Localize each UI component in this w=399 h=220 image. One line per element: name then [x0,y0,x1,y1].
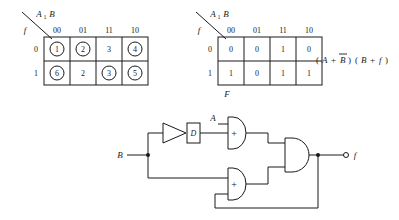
kmap-left-col-var-sub: 1 [44,14,47,20]
circuit-output-label-f: f [354,150,358,160]
circuit-input-label-b: B [117,150,123,160]
kmap-right-col-header-3: 10 [305,26,313,35]
equation-term-a: A [321,55,328,65]
kmap-right-caption: F [223,89,230,99]
kmap-right-cell-1-2: 1 [281,69,285,78]
kmap-right-cell-0-3: 0 [307,45,311,54]
figure-svg: A 1 B f 00 01 11 10 0 1 1 2 [0,0,399,220]
kmap-left-cell-0-2: 3 [107,45,111,54]
kmap-right-col-var-a: A [209,9,216,19]
kmap-right-cell-1-0: 1 [229,69,233,78]
kmap-right-col-header-0: 00 [227,26,235,35]
kmap-right-cell-0-1: 0 [255,45,259,54]
kmap-left-row-header-0: 0 [34,45,38,54]
figure-container: A 1 B f 00 01 11 10 0 1 1 2 [0,0,399,220]
kmap-left-col-var-a: A [35,9,42,19]
delay-element-label: D [190,129,197,138]
kmap-right-cell-0-2: 1 [281,45,285,54]
equation-close-paren-2: ) [385,55,388,65]
kmap-left-col-header-3: 10 [131,26,139,35]
kmap-right-row-header-0: 0 [208,45,212,54]
or-gate-lower-symbol: + [231,179,237,190]
kmap-left-cell-1-3: 5 [133,69,137,78]
kmap-left-row-header-1: 1 [34,69,38,78]
wire-lower-or-to-and [246,167,285,184]
kmap-right-cell-1-3: 1 [307,69,311,78]
kmap-left-row-var-f: f [24,25,28,35]
equation: ( A + B ) ( B + f ) [316,54,388,65]
kmap-left-col-header-2: 11 [105,26,113,35]
kmap-right-row-header-1: 1 [208,69,212,78]
kmap-right-cell-0-0: 0 [229,45,233,54]
logic-circuit: B D A + + [117,113,357,208]
output-terminal-icon [344,153,349,158]
or-gate-upper-symbol: + [231,128,237,139]
kmap-right-cell-1-1: 0 [255,69,259,78]
wire-upper-or-to-and [246,133,285,143]
kmap-left-col-header-0: 00 [53,26,61,35]
kmap-left-cell-1-1: 2 [81,69,85,78]
equation-term-b: B [361,55,367,65]
wire-b-to-buffer [148,133,163,155]
kmap-right-col-header-2: 11 [279,26,287,35]
kmap-left-cell-0-3: 4 [133,45,137,54]
kmap-left-cell-1-2: 3 [107,69,111,78]
kmap-left: A 1 B f 00 01 11 10 0 1 1 2 [22,9,148,85]
equation-open-paren: ( [316,55,319,65]
kmap-right-col-header-1: 01 [253,26,261,35]
kmap-left-cell-1-0: 6 [55,69,59,78]
kmap-right-row-var-f: f [198,25,202,35]
kmap-left-cell-0-0: 1 [55,45,59,54]
equation-close-paren-1: ) [348,55,351,65]
equation-plus-2: + [370,55,375,65]
kmap-right: A 1 B f 00 01 11 10 0 1 0 0 1 0 1 0 1 [196,9,322,99]
wire-b-to-lower-or [148,155,228,178]
kmap-left-col-var-b: B [49,9,55,19]
kmap-right-col-var-b: B [223,9,229,19]
circuit-input-label-a: A [209,113,216,123]
kmap-left-cell-0-1: 2 [81,45,85,54]
kmap-left-col-header-1: 01 [79,26,87,35]
equation-plus-1: + [331,55,336,65]
equation-term-f: f [379,55,383,65]
kmap-right-col-var-sub: 1 [218,14,221,20]
equation-term-b-bar: B [340,55,346,65]
and-gate-icon [285,138,309,172]
buffer-gate-icon [163,123,186,143]
equation-open-paren-2: ( [355,55,358,65]
